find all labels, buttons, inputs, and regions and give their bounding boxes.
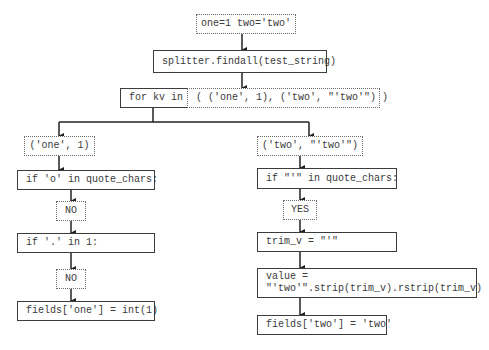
right-item-box: ('two', "'two'") [257,136,363,156]
findall-call: splitter.findall(test_string) [162,56,336,68]
right-quote-check-box: if "'" in quote_chars: [257,168,397,189]
input-string-box: one=1 two='two' [196,14,296,34]
left-quote-result: NO [65,205,77,217]
right-assign: fields['two'] = 'two' [266,319,392,331]
right-value-box: value = "'two'".strip(trim_v).rstrip(tri… [257,268,477,298]
right-quote-result-box: YES [283,200,317,220]
loop-items: ( ('one', 1), ('two', "'two'") ) [196,92,388,104]
left-assign-box: fields['one'] = int(1) [17,301,155,321]
loop-items-box: ( ('one', 1), ('two', "'two'") ) [187,88,380,108]
loop-label-box: for kv in [120,88,188,108]
right-item: ('two', "'two'") [262,140,358,152]
left-item: ('one', 1) [29,140,89,152]
right-value-line2: "'two'".strip(trim_v).rstrip(trim_v) [266,283,482,295]
input-string: one=1 two='two' [201,18,291,30]
left-dot-result: NO [65,273,77,285]
left-dot-check-box: if '.' in 1: [17,233,155,253]
right-quote-result: YES [291,204,309,216]
left-quote-result-box: NO [56,201,86,221]
left-assign: fields['one'] = int(1) [26,305,158,317]
left-quote-check: if 'o' in quote_chars: [26,174,158,186]
right-quote-check: if "'" in quote_chars: [266,173,398,185]
right-assign-box: fields['two'] = 'two' [257,315,387,335]
findall-box: splitter.findall(test_string) [153,50,327,73]
right-value-line1: value = [266,271,308,283]
right-trim: trim_v = "'" [266,236,338,248]
left-item-box: ('one', 1) [24,136,95,156]
left-dot-result-box: NO [56,269,86,289]
right-trim-box: trim_v = "'" [257,232,397,252]
loop-label: for kv in [129,92,183,104]
left-quote-check-box: if 'o' in quote_chars: [17,170,155,190]
left-dot-check: if '.' in 1: [26,237,98,249]
